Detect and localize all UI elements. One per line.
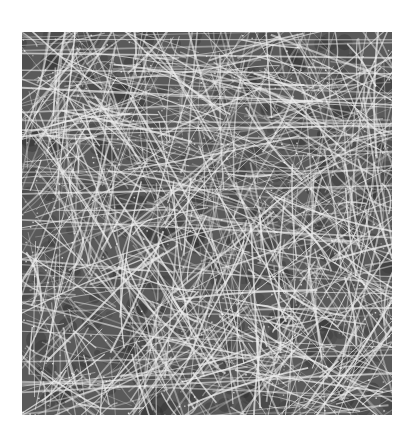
fiber-network-canvas xyxy=(22,32,392,415)
fiber-network-image xyxy=(22,32,392,415)
